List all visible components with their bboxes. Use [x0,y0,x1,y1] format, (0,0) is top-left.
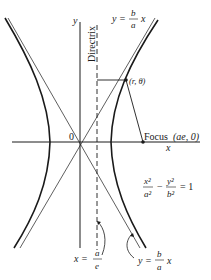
hyperbola-diagram: y x 0 Directrix (r, θ) Focus (ae, 0) y =… [0,0,211,280]
asymptote-negative [8,18,140,248]
hyperbola-equation: x² a² − y² b² = 1 [143,176,193,199]
svg-text:= 1: = 1 [180,181,193,192]
svg-text:x =: x = [73,253,88,264]
point-r-theta [124,78,128,82]
directrix-label: Directrix [86,26,97,62]
asymptote-label-top: y = b a x [111,8,146,30]
svg-text:b: b [131,8,136,18]
asymptote-label-bottom: y = b a x [137,249,172,272]
svg-text:x²: x² [143,176,151,186]
y-axis-label: y [72,15,78,26]
svg-text:x: x [140,13,146,24]
focus-word: Focus [144,131,168,142]
point-label: (r, θ) [129,76,146,86]
svg-text:a²: a² [144,189,152,199]
svg-text:e: e [95,261,99,271]
svg-text:−: − [157,181,163,192]
origin-label: 0 [69,131,74,142]
svg-text:a: a [95,248,100,258]
x-axis-label: x [165,142,171,153]
svg-text:b²: b² [167,189,175,199]
svg-text:x: x [166,255,172,266]
svg-text:y =: y = [111,13,126,24]
svg-text:y²: y² [166,176,174,186]
distance-to-focus [126,80,143,142]
directrix-equation: x = a e [73,248,102,271]
svg-text:a: a [131,20,136,30]
svg-text:y =: y = [137,255,152,266]
asymptote-pointer-arrow [127,234,134,258]
svg-text:b: b [157,249,162,259]
svg-text:a: a [157,262,162,272]
focus-coords: (ae, 0) [173,131,200,143]
